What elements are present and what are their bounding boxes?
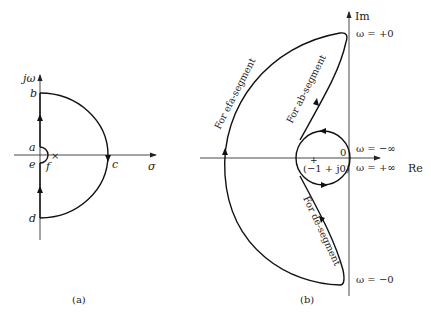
- jw-axis-label: jω: [20, 72, 35, 85]
- arrow-circle-bottom-icon: [321, 182, 328, 188]
- ab-segment-label: For ab-segment: [284, 53, 328, 125]
- point-b-label: b: [30, 87, 37, 100]
- panel-a-caption: (a): [72, 294, 86, 305]
- panel-a-s-plane-contour: × jω σ b a e f c d (a): [14, 72, 156, 305]
- re-axis-label: Re: [408, 162, 423, 175]
- efa-segment-label: For efa-segment: [212, 56, 258, 131]
- arrow-de-icon: [37, 186, 43, 193]
- freq-label-minus-inf: ω = −∞: [356, 143, 396, 154]
- origin-label: 0: [340, 147, 346, 158]
- panel-b-nyquist-plot: + Im Re 0 (−1 + j0) ω = +0 ω = −∞ ω = +∞…: [200, 10, 423, 305]
- point-f-label: f: [45, 160, 52, 173]
- point-e-label: e: [29, 158, 36, 171]
- arrow-ab-icon: [313, 98, 319, 106]
- arrow-efa-icon: [222, 148, 228, 155]
- critical-point-label: (−1 + j0): [303, 163, 350, 174]
- freq-label-plus-inf: ω = +∞: [356, 162, 396, 173]
- pole-marker: ×: [51, 150, 59, 161]
- panel-b-caption: (b): [300, 294, 314, 305]
- arrow-circle-top-icon: [319, 128, 326, 134]
- freq-label-plus-zero: ω = +0: [356, 28, 394, 39]
- point-c-label: c: [112, 158, 118, 171]
- freq-label-minus-zero: ω = −0: [356, 274, 394, 285]
- nyquist-figure: × jω σ b a e f c d (a) + Im Re: [0, 0, 431, 323]
- im-axis-label: Im: [355, 10, 370, 23]
- arrow-c-icon: [105, 155, 111, 162]
- sigma-axis-label: σ: [148, 160, 156, 173]
- point-a-label: a: [29, 141, 36, 154]
- de-segment-label: For de-segment: [301, 194, 343, 267]
- arrow-ab-icon: [37, 114, 43, 121]
- point-d-label: d: [29, 212, 36, 225]
